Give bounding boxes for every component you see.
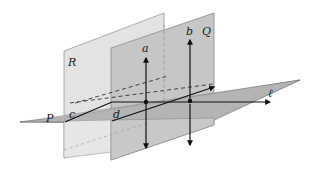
label-line-c: c: [69, 108, 75, 121]
plane-r-lower: [64, 120, 111, 158]
label-line-a: a: [142, 42, 149, 55]
label-line-d: d: [113, 108, 120, 121]
point-a: [144, 100, 148, 104]
three-planes-diagram: R Q P a b c d ℓ: [0, 0, 320, 175]
plane-q-lower: [111, 118, 214, 160]
label-line-l: ℓ: [268, 87, 273, 100]
label-plane-q: Q: [202, 25, 211, 38]
label-plane-r: R: [67, 56, 76, 69]
label-plane-p: P: [45, 112, 54, 125]
point-b: [188, 99, 192, 103]
label-line-b: b: [186, 25, 193, 38]
